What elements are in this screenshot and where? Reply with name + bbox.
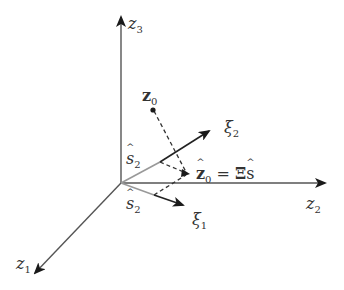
xi1-vector: [154, 195, 183, 205]
z0-label: z0: [142, 88, 157, 107]
z1-axis-label: z1: [16, 256, 31, 275]
z0-hat-equation: z0 = Ξs: [196, 166, 255, 185]
xi2-label: ξ2: [224, 120, 239, 139]
z1-axis: [35, 183, 121, 273]
z0-point: [150, 107, 155, 112]
xi1-label: ξ1: [192, 212, 207, 231]
s-hat-symbol: s: [246, 166, 254, 182]
component-line-xi1: [154, 175, 186, 195]
xi-matrix-symbol: Ξ: [235, 164, 246, 183]
projection-diagram: [0, 0, 344, 290]
z2-axis-label: z2: [306, 196, 321, 215]
z0-hat-symbol: z: [196, 166, 205, 182]
s2-hat-label-lower: s2: [126, 196, 141, 215]
s2-hat-label-upper: s2: [126, 151, 141, 170]
z3-axis-label: z3: [128, 16, 143, 35]
